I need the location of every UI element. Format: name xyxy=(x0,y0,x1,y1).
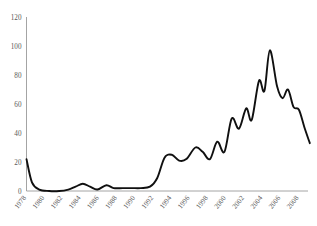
y-tick-label: 100 xyxy=(11,43,22,51)
x-tick-label: 1994 xyxy=(158,194,173,211)
x-tick-label: 2000 xyxy=(213,194,228,211)
y-tick-label: 20 xyxy=(14,159,22,167)
x-tick-label: 1978 xyxy=(13,194,28,211)
x-tick-label: 1984 xyxy=(67,194,82,211)
y-tick-label: 80 xyxy=(14,72,22,80)
data-series-line xyxy=(27,50,310,191)
x-tick-label: 1986 xyxy=(86,194,101,211)
x-tick-label: 2008 xyxy=(285,194,300,211)
y-tick-label: 40 xyxy=(14,130,22,138)
x-tick-label: 1988 xyxy=(104,194,119,211)
x-tick-label: 1990 xyxy=(122,194,137,211)
x-axis-tick-labels: 1978198019821984198619881990199219941996… xyxy=(13,194,301,211)
x-tick-label: 1982 xyxy=(49,194,64,211)
y-tick-label: 120 xyxy=(11,14,22,22)
x-tick-label: 1980 xyxy=(31,194,46,211)
x-tick-label: 2002 xyxy=(231,194,246,211)
y-tick-label: 60 xyxy=(14,101,22,109)
x-tick-label: 1996 xyxy=(176,194,191,211)
x-tick-label: 1998 xyxy=(195,194,210,211)
chart-container: 020406080100120 197819801982198419861988… xyxy=(0,0,317,226)
x-tick-label: 1992 xyxy=(140,194,155,211)
y-axis-tick-labels: 020406080100120 xyxy=(11,14,22,196)
x-tick-label: 2004 xyxy=(249,194,264,211)
x-tick-label: 2006 xyxy=(267,194,282,211)
line-chart: 020406080100120 197819801982198419861988… xyxy=(0,0,317,226)
